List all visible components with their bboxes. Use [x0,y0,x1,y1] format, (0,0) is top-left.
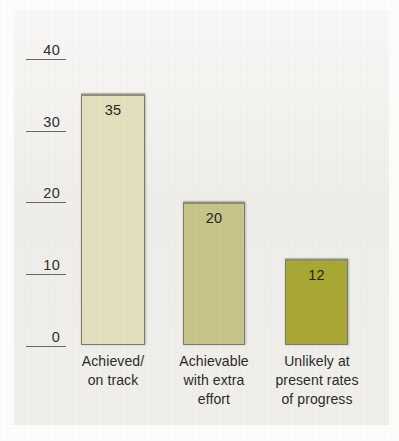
y-axis-tick-rule [26,59,66,60]
y-axis-tick-label: 30 [14,116,66,129]
y-axis-tick-label: 20 [14,187,66,200]
y-axis-tick-label: 10 [14,259,66,272]
y-axis-tick-10: 10 [14,259,66,275]
x-axis-label-line: present rates [262,371,372,390]
x-axis-label-line: Unlikely at [262,352,372,371]
bar-achieved-on-track[interactable]: 35 [81,94,145,345]
y-axis-tick-label: 0 [14,331,66,344]
x-axis-label-achievable-with-extra-effort: Achievable with extra effort [162,352,266,409]
x-axis-label-unlikely-at-present-rates-of-progress: Unlikely at present rates of progress [262,352,372,409]
y-axis-tick-30: 30 [14,116,66,132]
chart-image: 40 30 20 10 0 35 20 12 [0,0,399,441]
y-axis-tick-label: 40 [14,44,66,57]
x-axis-label-line: with extra [162,371,266,390]
y-axis-tick-40: 40 [14,44,66,60]
x-axis-label-line: effort [162,390,266,409]
y-axis-tick-20: 20 [14,187,66,203]
y-axis-tick-rule [26,274,66,275]
y-axis-tick-rule [26,131,66,132]
bar-value-label: 20 [184,210,244,226]
x-axis-label-achieved-on-track: Achieved/ on track [63,352,163,390]
x-axis-label-line: Achieved/ [63,352,163,371]
bar-chart: 40 30 20 10 0 35 20 12 [0,0,399,441]
y-axis-tick-rule [26,202,66,203]
x-axis-label-line: on track [63,371,163,390]
bar-value-label: 12 [286,267,347,283]
x-axis-label-line: Achievable [162,352,266,371]
bar-unlikely-at-present-rates-of-progress[interactable]: 12 [285,259,348,345]
bar-value-label: 35 [82,102,144,118]
y-axis-tick-rule [26,346,66,347]
bar-achievable-with-extra-effort[interactable]: 20 [183,202,245,345]
y-axis-tick-0: 0 [14,331,66,347]
x-axis-label-line: of progress [262,390,372,409]
